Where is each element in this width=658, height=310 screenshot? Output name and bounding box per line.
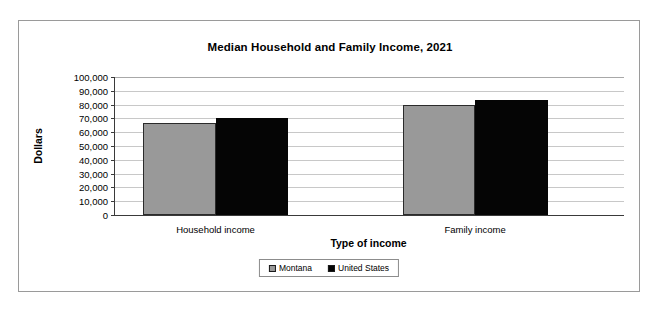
y-axis-tick [111, 201, 115, 202]
chart-legend: Montana United States [259, 259, 399, 277]
chart-figure: Median Household and Family Income, 2021… [18, 20, 640, 292]
y-axis-tick [111, 187, 115, 188]
legend-item-united-states: United States [328, 263, 389, 273]
y-axis-tick-label: 0 [103, 210, 108, 221]
y-axis-title: Dollars [31, 77, 45, 215]
bar-group: Household income [143, 77, 288, 215]
y-axis-tick-label: 30,000 [79, 168, 108, 179]
y-axis-tick-label: 60,000 [79, 127, 108, 138]
legend-label-united-states: United States [338, 263, 389, 273]
y-axis-tick-label: 10,000 [79, 196, 108, 207]
bar-montana-household-income [143, 123, 216, 215]
legend-label-montana: Montana [279, 263, 312, 273]
y-axis-tick [111, 132, 115, 133]
chart-title: Median Household and Family Income, 2021 [19, 41, 641, 53]
bar-united-states-family-income [475, 100, 548, 215]
bar-montana-family-income [403, 105, 476, 215]
y-axis-tick [111, 105, 115, 106]
y-axis-tick [111, 174, 115, 175]
y-axis-title-label: Dollars [32, 128, 44, 164]
y-axis-tick-label: 50,000 [79, 141, 108, 152]
y-axis-tick [111, 77, 115, 78]
y-axis-tick [111, 215, 115, 216]
legend-swatch-icon-united-states [328, 265, 335, 272]
y-axis-tick-label: 70,000 [79, 113, 108, 124]
y-axis-tick-label: 100,000 [74, 72, 108, 83]
y-axis-tick-label: 80,000 [79, 99, 108, 110]
y-axis-tick [111, 91, 115, 92]
y-axis-tick [111, 146, 115, 147]
plot-area: 100,00090,00080,00070,00060,00050,00040,… [114, 77, 624, 216]
x-axis-category-label: Household income [143, 224, 288, 235]
x-axis-category-label: Family income [403, 224, 548, 235]
legend-swatch-icon-montana [269, 265, 276, 272]
bar-group: Family income [403, 77, 548, 215]
legend-item-montana: Montana [269, 263, 312, 273]
y-axis-tick [111, 160, 115, 161]
y-axis-tick-label: 20,000 [79, 182, 108, 193]
y-axis-tick [111, 118, 115, 119]
y-axis-tick-label: 40,000 [79, 154, 108, 165]
x-axis-title: Type of income [114, 237, 623, 249]
y-axis-tick-label: 90,000 [79, 85, 108, 96]
bar-united-states-household-income [216, 118, 289, 215]
